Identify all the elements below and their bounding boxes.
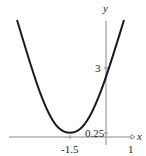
y-tick-label-3: 3 — [95, 62, 101, 74]
x-tick-label-neg15: -1.5 — [61, 143, 79, 155]
x-axis-label: x — [136, 130, 142, 142]
y-tick-label-025: 0.25 — [85, 127, 105, 139]
parabola-curve — [17, 20, 124, 133]
x-axis-arrow-icon — [131, 135, 135, 140]
x-tick-label-1: 1 — [128, 143, 134, 155]
parabola-chart: y x 3 0.25 -1.5 1 — [0, 0, 146, 156]
y-axis-label: y — [102, 2, 108, 14]
